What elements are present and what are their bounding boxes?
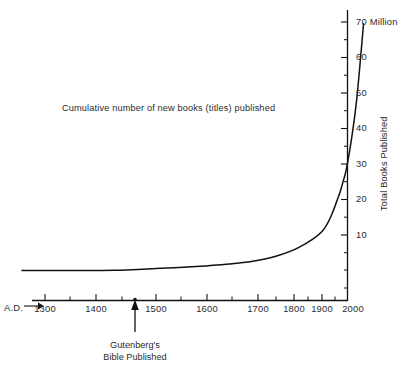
chart-plot-area (0, 0, 411, 376)
x-tick-label-2000: 2000 (342, 303, 364, 314)
chart-title: Cumulative number of new books (titles) … (62, 103, 275, 113)
y-tick-label-60: 60 (356, 51, 367, 62)
x-major-ticks (45, 294, 322, 300)
y-tick-label-30: 30 (356, 158, 367, 169)
x-tick-label-1700: 1700 (247, 303, 269, 314)
x-axis-ad-label: A.D. (4, 302, 23, 313)
x-tick-label-1300: 1300 (34, 303, 56, 314)
gutenberg-arrow-icon (131, 298, 139, 332)
x-tick-label-1500: 1500 (145, 303, 167, 314)
x-minor-ticks (70, 297, 335, 301)
y-tick-label-10: 10 (356, 229, 367, 240)
data-series-line (22, 24, 364, 271)
y-axis-title: Total Books Published (379, 195, 389, 211)
y-tick-label-50: 50 (356, 87, 367, 98)
x-tick-label-1900: 1900 (311, 303, 333, 314)
gutenberg-annotation-line2: Bible Published (103, 352, 166, 364)
y-tick-label-40: 40 (356, 122, 367, 133)
x-tick-label-1600: 1600 (196, 303, 218, 314)
x-tick-label-1800: 1800 (283, 303, 305, 314)
gutenberg-annotation-line1: Gutenberg's (110, 340, 160, 350)
chart-figure: Cumulative number of new books (titles) … (0, 0, 411, 376)
y-tick-label-20: 20 (356, 193, 367, 204)
gutenberg-annotation: Gutenberg's Bible Published (103, 340, 166, 363)
x-tick-label-1400: 1400 (85, 303, 107, 314)
y-tick-label-70: 70 Million (356, 16, 398, 27)
